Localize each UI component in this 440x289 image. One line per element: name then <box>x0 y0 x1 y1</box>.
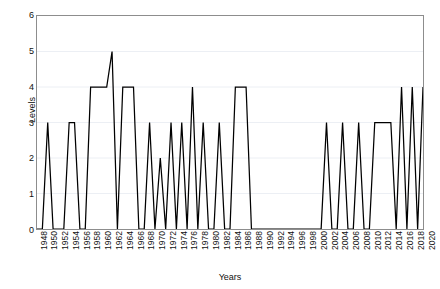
x-tick-label: 2020 <box>428 231 437 250</box>
x-tick-label: 1982 <box>223 231 232 250</box>
x-tick-label: 1956 <box>83 231 92 250</box>
y-axis-tick-labels: 0123456 <box>14 15 34 230</box>
x-tick-label: 1954 <box>72 231 81 250</box>
x-tick-label: 2006 <box>352 231 361 250</box>
y-tick-label: 4 <box>14 82 34 91</box>
x-tick-label: 1978 <box>201 231 210 250</box>
x-tick-label: 1972 <box>169 231 178 250</box>
x-tick-label: 1994 <box>287 231 296 250</box>
x-tick-label: 1968 <box>147 231 156 250</box>
x-tick-label: 1990 <box>266 231 275 250</box>
x-tick-label: 2008 <box>363 231 372 250</box>
x-tick-label: 1976 <box>190 231 199 250</box>
x-axis-tick-labels: 1948195019521954195619581960196219641966… <box>36 231 424 271</box>
x-tick-label: 2018 <box>417 231 426 250</box>
y-tick-label: 6 <box>14 11 34 20</box>
x-tick-label: 2000 <box>320 231 329 250</box>
x-tick-label: 1958 <box>93 231 102 250</box>
x-tick-label: 2016 <box>406 231 415 250</box>
x-tick-label: 1970 <box>158 231 167 250</box>
data-series-line <box>37 16 423 229</box>
x-tick-label: 2002 <box>331 231 340 250</box>
plot-area <box>36 15 424 230</box>
x-tick-label: 1992 <box>277 231 286 250</box>
x-tick-label: 2014 <box>395 231 404 250</box>
series-polyline <box>37 51 423 229</box>
x-tick-label: 1964 <box>126 231 135 250</box>
x-tick-label: 1998 <box>309 231 318 250</box>
x-tick-label: 1948 <box>40 231 49 250</box>
y-tick-label: 0 <box>14 226 34 235</box>
x-axis-title: Years <box>36 272 424 282</box>
x-tick-label: 1950 <box>50 231 59 250</box>
y-tick-label: 5 <box>14 46 34 55</box>
line-chart: Levels 0123456 1948195019521954195619581… <box>0 0 440 289</box>
y-tick-label: 1 <box>14 190 34 199</box>
x-tick-label: 1966 <box>137 231 146 250</box>
x-tick-label: 1996 <box>298 231 307 250</box>
x-tick-label: 2012 <box>384 231 393 250</box>
x-tick-label: 1962 <box>115 231 124 250</box>
x-tick-label: 1986 <box>244 231 253 250</box>
x-tick-label: 1974 <box>180 231 189 250</box>
y-tick-label: 3 <box>14 118 34 127</box>
x-tick-label: 2010 <box>374 231 383 250</box>
x-tick-label: 1960 <box>104 231 113 250</box>
x-tick-label: 1988 <box>255 231 264 250</box>
x-tick-label: 1952 <box>61 231 70 250</box>
x-tick-label: 2004 <box>341 231 350 250</box>
y-tick-label: 2 <box>14 154 34 163</box>
x-tick-label: 1980 <box>212 231 221 250</box>
x-tick-label: 1984 <box>234 231 243 250</box>
